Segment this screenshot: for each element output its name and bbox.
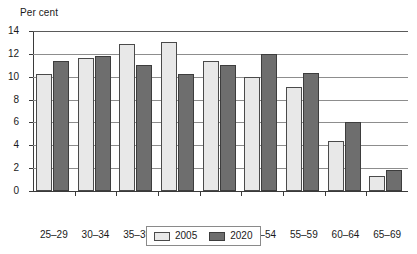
bar-2005-40-44 xyxy=(161,42,177,191)
bar-group xyxy=(116,31,158,191)
x-tick-mark xyxy=(366,192,367,196)
bar-group xyxy=(75,31,117,191)
bar-chart: Per cent 02468101214 25–2930–3435–3940–4… xyxy=(0,0,417,254)
light-gray-swatch-icon xyxy=(154,232,170,241)
bars-layer xyxy=(33,31,408,192)
y-tick-label: 12 xyxy=(0,49,19,59)
bar-2020-30-34 xyxy=(95,56,111,191)
y-tick-label: 4 xyxy=(0,140,19,150)
bar-group xyxy=(241,31,283,191)
bar-2020-50-54 xyxy=(261,54,277,191)
legend-entry-2005: 2005 xyxy=(154,231,197,241)
bar-2020-40-44 xyxy=(178,74,194,191)
y-axis-title: Per cent xyxy=(20,7,58,19)
y-tick-label: 2 xyxy=(0,163,19,173)
bar-group xyxy=(325,31,367,191)
bar-2020-25-29 xyxy=(53,61,69,191)
y-tick-label: 10 xyxy=(0,72,19,82)
legend-label-2020: 2020 xyxy=(230,231,252,241)
bar-group xyxy=(200,31,242,191)
x-tick-mark xyxy=(200,192,201,196)
bar-group xyxy=(33,31,75,191)
x-tick-mark xyxy=(75,192,76,196)
chart-legend: 2005 2020 xyxy=(146,226,261,246)
bar-2020-60-64 xyxy=(345,122,361,191)
plot-area: 02468101214 25–2930–3435–3940–4445–4950–… xyxy=(33,31,408,192)
legend-entry-2020: 2020 xyxy=(209,231,252,241)
y-tick-label: 0 xyxy=(0,186,19,196)
bar-2005-25-29 xyxy=(36,74,52,191)
bar-2020-45-49 xyxy=(220,65,236,191)
bar-2005-55-59 xyxy=(286,87,302,191)
bar-2020-65-69 xyxy=(386,170,402,191)
bar-2005-35-39 xyxy=(119,44,135,191)
x-tick-mark xyxy=(241,192,242,196)
x-tick-mark xyxy=(325,192,326,196)
x-tick-mark xyxy=(283,192,284,196)
x-tick-label: 65–69 xyxy=(363,229,411,240)
bar-2005-30-34 xyxy=(78,58,94,191)
bar-2020-55-59 xyxy=(303,73,319,191)
y-tick-label: 8 xyxy=(0,95,19,105)
y-tick-label: 6 xyxy=(0,117,19,127)
y-tick-label: 14 xyxy=(0,26,19,36)
bar-2005-45-49 xyxy=(203,61,219,191)
bar-2005-60-64 xyxy=(328,141,344,191)
bar-2005-65-69 xyxy=(369,176,385,191)
bar-group xyxy=(366,31,408,191)
bar-group xyxy=(283,31,325,191)
x-tick-mark xyxy=(158,192,159,196)
bar-2005-50-54 xyxy=(244,77,260,191)
x-tick-mark xyxy=(116,192,117,196)
bar-group xyxy=(158,31,200,191)
dark-gray-swatch-icon xyxy=(209,232,225,241)
bar-2020-35-39 xyxy=(136,65,152,191)
legend-label-2005: 2005 xyxy=(175,231,197,241)
